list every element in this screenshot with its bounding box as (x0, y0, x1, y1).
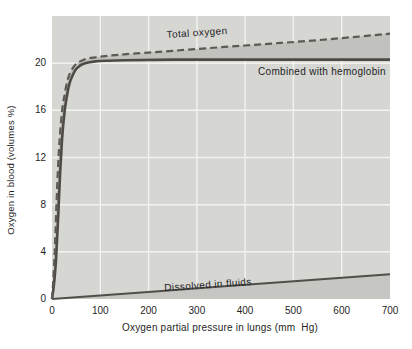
y-tick-label-12: 12 (35, 153, 46, 163)
y-tick-label-0: 0 (40, 294, 46, 304)
y-tick-label-4: 4 (40, 247, 46, 257)
x-tick-label-600: 600 (333, 306, 350, 316)
y-tick-label-20: 20 (35, 58, 46, 68)
x-tick-label-700: 700 (382, 306, 399, 316)
y-tick-label-8: 8 (40, 200, 46, 210)
combined-with-hemoglobin-label: Combined with hemoglobin (258, 67, 386, 77)
x-axis-title: Oxygen partial pressure in lungs (mm Hg) (122, 323, 318, 333)
x-tick-label-500: 500 (285, 306, 302, 316)
x-tick-label-0: 0 (49, 306, 55, 316)
y-axis-title: Oxygen in blood (volumes %) (6, 105, 16, 235)
chart-canvas (0, 0, 412, 349)
x-tick-label-200: 200 (140, 306, 157, 316)
x-tick-label-400: 400 (237, 306, 254, 316)
y-tick-label-16: 16 (35, 105, 46, 115)
x-tick-label-100: 100 (92, 306, 109, 316)
x-tick-label-300: 300 (189, 306, 206, 316)
oxygen-transport-chart: Oxygen in blood (volumes %) Oxygen parti… (0, 0, 412, 349)
